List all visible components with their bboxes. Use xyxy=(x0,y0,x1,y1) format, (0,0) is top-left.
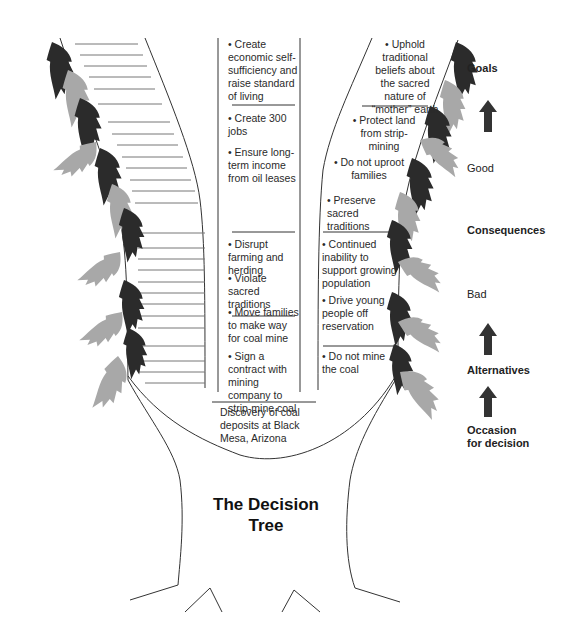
left-good-2: • Ensure long-term income from oil lease… xyxy=(228,146,300,185)
left-good-1: • Create 300 jobs xyxy=(228,112,300,138)
left-goal-text: • Create economic self-sufficiency and r… xyxy=(228,38,300,103)
right-good-3: • Preserve sacred traditions xyxy=(327,194,397,233)
leaves-left xyxy=(47,42,148,417)
legend-bad: Bad xyxy=(467,288,487,300)
legend-goals: Goals xyxy=(467,62,498,74)
right-good-1: • Protect land from strip-mining xyxy=(345,114,423,153)
legend-alternatives: Alternatives xyxy=(467,364,530,376)
right-bad-2: • Drive young people off reservation xyxy=(322,294,394,333)
decision-tree-diagram: • Create economic self-sufficiency and r… xyxy=(0,0,573,630)
right-good-2: • Do not uproot families xyxy=(330,156,408,182)
occasion-text: Discovery of coal deposits at Black Mesa… xyxy=(220,406,318,445)
legend-good: Good xyxy=(467,162,494,174)
right-alternative: • Do not mine the coal xyxy=(322,350,394,376)
diagram-title: The Decision Tree xyxy=(196,494,336,536)
right-bad-1: • Continued inability to support growing… xyxy=(322,238,398,290)
legend-consequences: Consequences xyxy=(467,224,545,236)
right-goal-text: • Uphold traditional beliefs about the s… xyxy=(370,38,440,116)
legend-occasion: Occasion for decision xyxy=(467,424,529,450)
left-bad-3: • Move families to make way for coal min… xyxy=(228,306,300,345)
